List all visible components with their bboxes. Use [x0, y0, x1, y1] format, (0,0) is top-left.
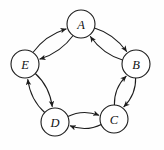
- edge-d-to-c: [67, 112, 99, 116]
- node-label-a: A: [76, 18, 85, 32]
- edge-e-to-d: [35, 73, 52, 107]
- edge-b-to-c: [124, 77, 136, 106]
- node-label-d: D: [49, 116, 59, 130]
- edge-a-to-b: [94, 28, 127, 52]
- node-a[interactable]: A: [67, 10, 95, 38]
- node-e[interactable]: E: [11, 50, 39, 78]
- diagram-canvas: ABCDE: [0, 0, 164, 150]
- nodes-layer: ABCDE: [11, 10, 150, 136]
- node-label-b: B: [132, 58, 140, 72]
- edge-b-to-a: [90, 37, 123, 61]
- node-d[interactable]: D: [41, 108, 69, 136]
- ring-digraph: ABCDE: [0, 0, 164, 150]
- edge-a-to-e: [40, 35, 74, 59]
- edge-e-to-a: [33, 29, 67, 53]
- node-b[interactable]: B: [122, 50, 150, 78]
- edge-c-to-b: [114, 76, 126, 105]
- node-label-c: C: [110, 113, 119, 127]
- edge-c-to-d: [70, 124, 102, 128]
- node-label-e: E: [20, 58, 29, 72]
- edge-d-to-e: [28, 79, 45, 113]
- node-c[interactable]: C: [100, 105, 128, 133]
